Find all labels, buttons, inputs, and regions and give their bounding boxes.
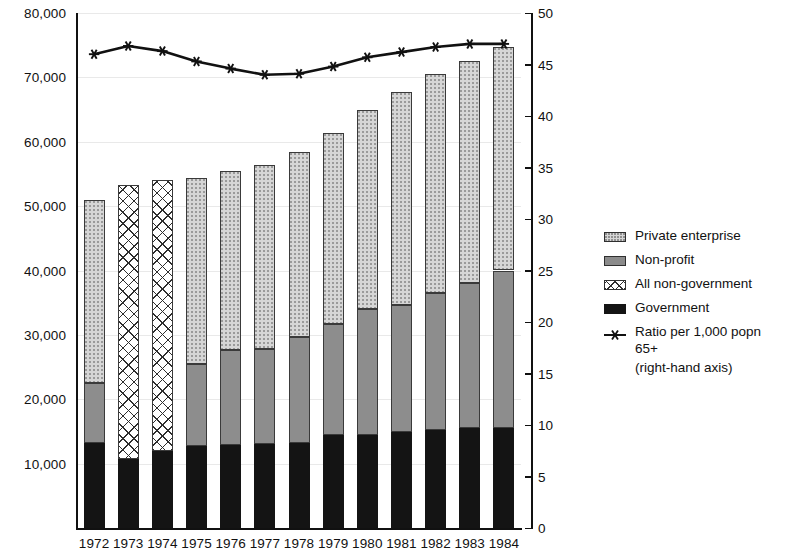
x-axis-label-1983: 1983 bbox=[455, 536, 485, 549]
y-axis-left-label: 70,000 bbox=[0, 70, 66, 85]
bar-segment-private_enterprise bbox=[220, 171, 241, 350]
bar-segment-private_enterprise bbox=[323, 133, 344, 324]
y-axis-right-tick bbox=[525, 64, 532, 66]
legend-item-non-profit[interactable]: Non-profit bbox=[604, 252, 786, 269]
legend-swatch-solid-black bbox=[604, 304, 626, 314]
x-axis-line bbox=[76, 528, 522, 530]
legend-label: Private enterprise bbox=[635, 228, 741, 245]
y-axis-left-label: 60,000 bbox=[0, 134, 66, 149]
y-axis-right-label: 40 bbox=[538, 109, 553, 124]
y-axis-right-label: 20 bbox=[538, 315, 553, 330]
bar-1974 bbox=[152, 13, 173, 528]
y-axis-right-tick bbox=[525, 13, 532, 15]
y-axis-right-label: 10 bbox=[538, 418, 553, 433]
legend-swatch-gray-stipple bbox=[604, 256, 626, 266]
bar-segment-private_enterprise bbox=[493, 47, 514, 270]
y-axis-right-label: 15 bbox=[538, 366, 553, 381]
legend-item-all-non-government[interactable]: All non-government bbox=[604, 276, 786, 293]
x-axis-label-1972: 1972 bbox=[79, 536, 109, 549]
bar-segment-government bbox=[118, 459, 139, 528]
bar-segment-government bbox=[459, 428, 480, 528]
y-axis-right-label: 0 bbox=[538, 521, 546, 536]
y-axis-left-label: 40,000 bbox=[0, 263, 66, 278]
bar-segment-government bbox=[323, 435, 344, 528]
bar-segment-non_profit bbox=[391, 305, 412, 432]
y-axis-right-label: 35 bbox=[538, 160, 553, 175]
bar-segment-non_profit bbox=[220, 350, 241, 445]
y-axis-right-tick bbox=[525, 528, 532, 530]
x-axis-label-1984: 1984 bbox=[489, 536, 519, 549]
bar-segment-non_profit bbox=[425, 293, 446, 429]
bar-1983 bbox=[459, 13, 480, 528]
x-axis-label-1979: 1979 bbox=[318, 536, 348, 549]
y-axis-right-tick bbox=[525, 425, 532, 427]
x-axis-label-1982: 1982 bbox=[420, 536, 450, 549]
bar-segment-government bbox=[289, 443, 310, 528]
y-axis-right-tick bbox=[525, 270, 532, 272]
y-axis-right-label: 5 bbox=[538, 469, 546, 484]
legend-label: All non-government bbox=[635, 276, 752, 293]
y-axis-left-label: 50,000 bbox=[0, 199, 66, 214]
x-axis-label-1978: 1978 bbox=[284, 536, 314, 549]
y-axis-right-tick bbox=[525, 322, 532, 324]
bar-segment-all_non_government bbox=[118, 185, 139, 459]
y-axis-left-label: 20,000 bbox=[0, 392, 66, 407]
legend-item-ratio-per-1-000-popn-65[interactable]: Ratio per 1,000 popn 65+ bbox=[604, 324, 786, 357]
bar-segment-private_enterprise bbox=[186, 178, 207, 365]
legend-swatch-crosshatch bbox=[604, 280, 626, 290]
bar-segment-private_enterprise bbox=[84, 200, 105, 383]
y-axis-left-label: 80,000 bbox=[0, 6, 66, 21]
y-axis-right-label: 25 bbox=[538, 263, 553, 278]
bar-1975 bbox=[186, 13, 207, 528]
bar-1979 bbox=[323, 13, 344, 528]
bar-1981 bbox=[391, 13, 412, 528]
bar-1976 bbox=[220, 13, 241, 528]
chart-legend: Private enterpriseNon-profitAll non-gove… bbox=[604, 228, 786, 376]
y-axis-right-tick bbox=[525, 167, 532, 169]
bar-segment-non_profit bbox=[323, 324, 344, 435]
y-axis-left-label: 10,000 bbox=[0, 456, 66, 471]
bar-segment-government bbox=[186, 446, 207, 528]
chart-container: 10,00020,00030,00040,00050,00060,00070,0… bbox=[0, 0, 786, 549]
bar-segment-private_enterprise bbox=[425, 74, 446, 294]
bar-segment-government bbox=[152, 451, 173, 528]
bar-segment-non_profit bbox=[254, 349, 275, 444]
bar-segment-non_profit bbox=[289, 337, 310, 443]
y-axis-right-label: 30 bbox=[538, 212, 553, 227]
bar-1982 bbox=[425, 13, 446, 528]
bar-1973 bbox=[118, 13, 139, 528]
bar-segment-government bbox=[357, 435, 378, 528]
bar-1972 bbox=[84, 13, 105, 528]
bar-1980 bbox=[357, 13, 378, 528]
bar-segment-private_enterprise bbox=[289, 152, 310, 337]
x-axis-label-1975: 1975 bbox=[181, 536, 211, 549]
bar-segment-private_enterprise bbox=[459, 61, 480, 283]
bar-1978 bbox=[289, 13, 310, 528]
y-axis-right-tick bbox=[525, 219, 532, 221]
bar-segment-private_enterprise bbox=[391, 92, 412, 305]
star-line-icon bbox=[604, 327, 626, 339]
legend-item-private-enterprise[interactable]: Private enterprise bbox=[604, 228, 786, 245]
legend-swatch-light-stipple bbox=[604, 232, 626, 242]
y-axis-right-label: 45 bbox=[538, 57, 553, 72]
legend-label: Non-profit bbox=[635, 252, 694, 269]
bar-1984 bbox=[493, 13, 514, 528]
bar-segment-government bbox=[493, 428, 514, 528]
legend-label: Government bbox=[635, 300, 709, 317]
bar-segment-private_enterprise bbox=[254, 165, 275, 349]
x-axis-label-1980: 1980 bbox=[352, 536, 382, 549]
x-axis-label-1981: 1981 bbox=[386, 536, 416, 549]
legend-sublabel: (right-hand axis) bbox=[635, 360, 786, 377]
y-axis-right-label: 50 bbox=[538, 6, 553, 21]
bar-segment-non_profit bbox=[493, 271, 514, 428]
bar-segment-non_profit bbox=[357, 309, 378, 435]
bar-segment-non_profit bbox=[84, 383, 105, 443]
legend-item-government[interactable]: Government bbox=[604, 300, 786, 317]
x-axis-label-1973: 1973 bbox=[113, 536, 143, 549]
y-axis-right-tick bbox=[525, 476, 532, 478]
x-axis-label-1976: 1976 bbox=[215, 536, 245, 549]
bar-segment-non_profit bbox=[186, 364, 207, 445]
bar-segment-government bbox=[220, 445, 241, 528]
y-axis-right-tick bbox=[525, 116, 532, 118]
bar-segment-government bbox=[391, 432, 412, 528]
